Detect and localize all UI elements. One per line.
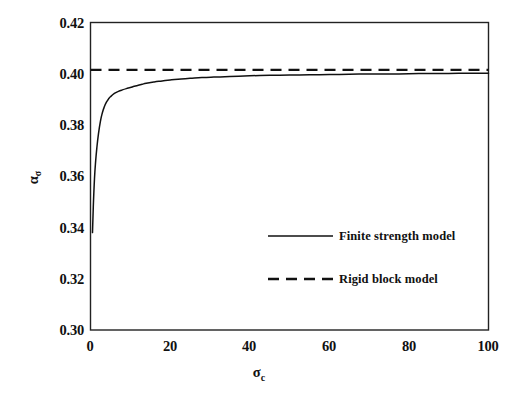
y-axis-title-wrapper: ασ	[14, 150, 54, 210]
x-axis-title-subscript: c	[261, 372, 265, 383]
x-axis-title-base: σ	[253, 364, 261, 380]
y-tick-label-0.30: 0.30	[22, 322, 84, 339]
x-tick-label-40: 40	[219, 338, 279, 355]
y-axis-title-subscript: σ	[32, 171, 43, 176]
y-axis-title-base: α	[25, 176, 41, 184]
x-tick-label-100: 100	[458, 338, 518, 355]
y-tick-label-0.34: 0.34	[22, 220, 84, 237]
legend-label-rigid-block-model: Rigid block model	[339, 272, 438, 287]
y-tick-label-0.42: 0.42	[22, 15, 84, 32]
y-tick-label-0.40: 0.40	[22, 66, 84, 83]
x-tick-label-20: 20	[140, 338, 200, 355]
x-tick-label-0: 0	[60, 338, 120, 355]
x-axis-title: σc	[229, 364, 289, 383]
y-tick-label-0.38: 0.38	[22, 117, 84, 134]
x-tick-label-60: 60	[299, 338, 359, 355]
y-axis-title: ασ	[25, 151, 44, 203]
chart-figure: 0.42 0.40 0.38 0.36 0.34 0.32 0.30 0 20 …	[0, 0, 518, 402]
legend-label-finite-strength-model: Finite strength model	[339, 229, 455, 244]
x-tick-label-80: 80	[379, 338, 439, 355]
y-tick-label-0.32: 0.32	[22, 271, 84, 288]
